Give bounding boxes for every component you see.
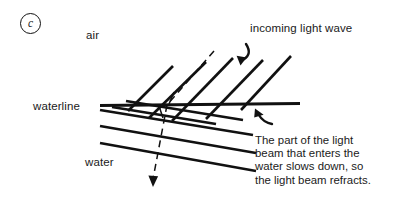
refraction-diagram-figure: c air waterline water incoming light wav… [0,0,402,205]
caption-refraction: The part of the light beam that enters t… [255,134,400,187]
caption-line: the light beam refracts. [255,174,400,187]
arrowhead-down-icon [148,176,158,188]
caption-line: beam that enters the [255,147,400,160]
label-incoming-light-wave: incoming light wave [250,22,352,35]
label-air: air [86,29,99,42]
incident-wavefronts-group [128,56,291,121]
incident-wavefront [206,60,263,119]
incident-wavefront [241,56,291,110]
refracted-wavefront [100,126,256,153]
caption-line: The part of the light [255,134,400,147]
label-waterline: waterline [33,100,80,113]
panel-letter-badge: c [20,13,41,34]
waterline-interface [100,104,300,106]
curved-arrow-up-left-icon [254,109,272,125]
curved-arrow-down-icon [237,44,249,66]
refracted-wavefront [100,143,256,171]
caption-line: water slows down, so [255,160,400,173]
label-water: water [85,156,114,169]
refracted-wavefronts-group [100,101,256,171]
